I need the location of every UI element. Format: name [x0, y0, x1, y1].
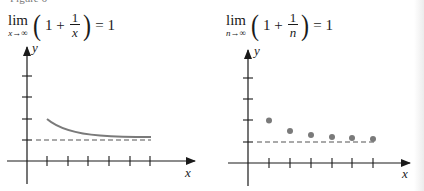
curve-1-plus-1-over-x — [47, 119, 151, 137]
y-axis-label: y — [30, 40, 38, 55]
sequence-points — [266, 118, 376, 143]
y-axis-label: y — [252, 43, 260, 58]
x-axis-label: x — [401, 166, 408, 181]
x-axis-label: x — [184, 165, 191, 180]
chart-left-continuous: y x — [7, 40, 195, 184]
chart-right-sequence: y x — [228, 43, 410, 186]
plots-canvas: y x y x — [0, 0, 424, 191]
